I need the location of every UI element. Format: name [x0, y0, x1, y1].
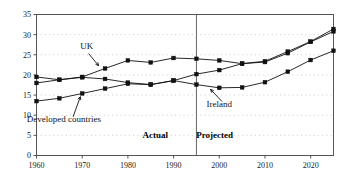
uk-label: UK — [80, 41, 93, 51]
data-point-marker — [309, 58, 313, 62]
data-point-marker — [35, 99, 39, 103]
y-axis-tick-label: 20 — [23, 71, 31, 80]
data-point-marker — [103, 67, 107, 71]
y-axis-tick-label: 15 — [23, 91, 31, 100]
data-point-marker — [195, 72, 199, 76]
data-point-marker — [172, 56, 176, 60]
data-point-marker — [332, 27, 336, 31]
x-axis-tick-label: 2000 — [211, 161, 227, 170]
data-point-marker — [195, 57, 199, 61]
y-axis-tick-label: 30 — [23, 31, 31, 40]
data-point-marker — [103, 87, 107, 91]
data-point-marker — [172, 79, 176, 83]
actual-label: Actual — [143, 130, 169, 140]
data-point-marker — [240, 86, 244, 90]
data-point-marker — [35, 75, 39, 79]
data-point-marker — [286, 70, 290, 74]
data-point-marker — [126, 82, 130, 86]
data-point-marker — [57, 78, 61, 82]
data-point-marker — [126, 59, 130, 63]
ireland-label: Ireland — [207, 99, 233, 109]
data-point-marker — [80, 92, 84, 96]
y-axis-tick-label: 35 — [23, 10, 31, 19]
chart-background — [0, 0, 345, 182]
data-point-marker — [149, 61, 153, 65]
data-point-marker — [263, 59, 267, 63]
x-axis-tick-label: 1970 — [74, 161, 90, 170]
y-axis-tick-label: 0 — [27, 151, 31, 160]
x-axis-tick-label: 1960 — [29, 161, 45, 170]
data-point-marker — [217, 59, 221, 63]
y-axis-tick-label: 5 — [27, 131, 31, 140]
developed-countries-label: Developed countries — [27, 114, 102, 124]
data-point-marker — [103, 77, 107, 81]
data-point-marker — [35, 81, 39, 85]
data-point-marker — [57, 96, 61, 100]
data-point-marker — [332, 49, 336, 53]
data-point-marker — [309, 40, 313, 44]
data-point-marker — [240, 62, 244, 66]
data-point-marker — [149, 83, 153, 87]
data-point-marker — [195, 83, 199, 87]
x-axis-tick-label: 1990 — [166, 161, 182, 170]
y-axis-tick-label: 25 — [23, 51, 31, 60]
x-axis-tick-label: 1980 — [120, 161, 136, 170]
x-axis-tick-label: 2020 — [303, 161, 319, 170]
line-chart: 05101520253035 1960197019801990200020102… — [0, 0, 345, 182]
data-point-marker — [217, 86, 221, 90]
data-point-marker — [217, 68, 221, 72]
data-point-marker — [80, 75, 84, 79]
chart-canvas: 05101520253035 1960197019801990200020102… — [0, 0, 345, 182]
x-axis-tick-label: 2010 — [257, 161, 273, 170]
projected-label: Projected — [196, 130, 233, 140]
data-point-marker — [286, 50, 290, 54]
data-point-marker — [263, 80, 267, 84]
